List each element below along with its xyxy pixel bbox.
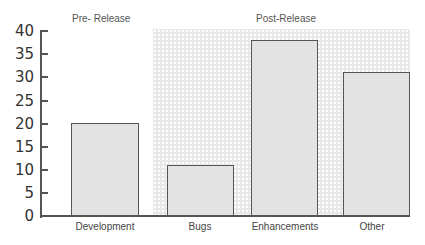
y-tick-mark [40, 192, 48, 194]
category-label-bugs: Bugs [160, 221, 240, 232]
y-tick-label: 15 [6, 138, 34, 156]
bar-other [343, 72, 410, 216]
bar-development [71, 123, 139, 216]
y-tick-label: 10 [6, 161, 34, 179]
category-label-development: Development [65, 221, 145, 232]
pre-release-label: Pre- Release [72, 13, 130, 24]
y-tick-label: 40 [6, 22, 34, 40]
y-tick-label: 35 [6, 45, 34, 63]
post-release-label: Post-Release [256, 13, 316, 24]
category-label-enhancements: Enhancements [245, 221, 325, 232]
bar-enhancements [251, 40, 318, 216]
y-tick-mark [40, 123, 48, 125]
y-tick-label: 25 [6, 92, 34, 110]
y-tick-mark [40, 146, 48, 148]
y-tick-label: 5 [6, 184, 34, 202]
y-tick-mark [40, 30, 48, 32]
y-tick-mark [40, 215, 48, 217]
y-tick-mark [40, 53, 48, 55]
y-tick-mark [40, 100, 48, 102]
y-tick-mark [40, 169, 48, 171]
bar-bugs [167, 165, 234, 216]
y-tick-label: 30 [6, 68, 34, 86]
y-tick-label: 20 [6, 115, 34, 133]
y-tick-mark [40, 76, 48, 78]
y-tick-label: 0 [6, 207, 34, 225]
category-label-other: Other [332, 221, 412, 232]
